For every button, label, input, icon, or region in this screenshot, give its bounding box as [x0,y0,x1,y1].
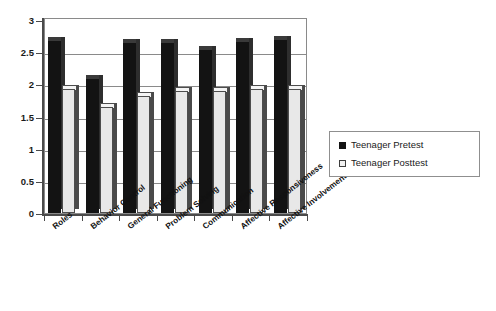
x-axis-tick [307,215,308,221]
legend-label-posttest: Teenager Posttest [351,158,428,168]
bar-front-face [86,79,99,213]
bar-side-face [301,85,305,209]
legend-swatch-pretest-icon [339,142,346,149]
x-axis-tick [232,215,233,221]
bar-posttest [62,89,75,213]
bar-side-face [113,103,117,209]
y-axis-tick-label: 2.5 [0,48,34,58]
bar-side-face [226,87,230,209]
chart-legend: Teenager Pretest Teenager Posttest [329,131,480,177]
bar-side-face [150,92,154,209]
y-axis-line [42,18,44,215]
y-axis-tick-label: 1 [0,145,34,155]
bar-side-face [75,85,79,209]
y-axis-tick-label: 0.5 [0,177,34,187]
y-axis-tick-label: 0 [0,209,34,219]
x-axis-tick [82,215,83,221]
legend-item-pretest: Teenager Pretest [339,140,423,150]
bar-pretest [48,41,61,213]
bar-front-face [62,89,75,213]
x-axis-tick [119,215,120,221]
x-axis-tick [157,215,158,221]
y-axis-tick-label: 2 [0,80,34,90]
bar-front-face [100,107,113,213]
legend-swatch-posttest-icon [339,160,346,167]
y-axis-tick-label: 1.5 [0,113,34,123]
x-axis-tick [269,215,270,221]
bar-chart: 00.511.522.53 RolesBehavior ControlGener… [0,0,496,311]
legend-item-posttest: Teenager Posttest [339,158,428,168]
bar-side-face [263,85,267,209]
bar-side-face [188,87,192,209]
bar-pretest [86,79,99,213]
bar-posttest [100,107,113,213]
legend-label-pretest: Teenager Pretest [351,140,423,150]
x-axis-tick [194,215,195,221]
y-axis-tick-label: 3 [0,16,34,26]
x-axis-tick [44,215,45,221]
bar-front-face [48,41,61,213]
